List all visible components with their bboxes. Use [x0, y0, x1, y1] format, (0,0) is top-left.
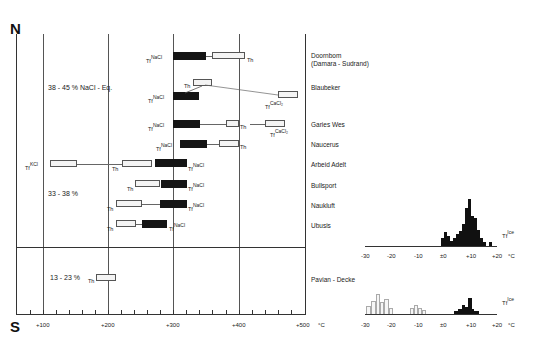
histogram-lower	[360, 290, 544, 315]
histogram-upper-label: TfIce	[502, 229, 514, 239]
histogram-axis	[365, 246, 497, 247]
histogram-bars	[360, 190, 544, 246]
histogram-black-bars	[360, 290, 544, 314]
histogram-upper	[360, 190, 544, 250]
histogram-lower-label: TfIce	[502, 296, 514, 306]
histogram-axis	[365, 314, 497, 315]
